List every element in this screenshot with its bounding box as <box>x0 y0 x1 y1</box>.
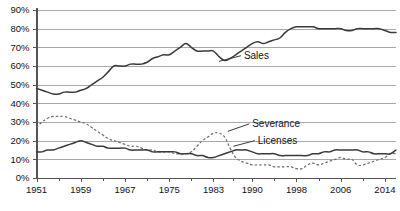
axis-lines <box>37 8 397 179</box>
x-tick-label: 1951 <box>26 184 47 195</box>
series-line-severance <box>37 116 397 169</box>
series-line-sales <box>37 27 397 95</box>
x-tick-label: 1990 <box>242 184 263 195</box>
y-axis-tick-labels: 0%10%20%30%40%50%60%70%80%90% <box>10 4 30 183</box>
y-tick-label: 50% <box>10 79 30 90</box>
x-tick-label: 1967 <box>114 184 135 195</box>
y-tick-label: 90% <box>10 4 30 15</box>
x-tick-label: 1983 <box>203 184 224 195</box>
series-label-severance: Severance <box>252 118 300 129</box>
leader-line-severance <box>228 124 249 131</box>
x-tick-label: 1959 <box>70 184 91 195</box>
y-axis-tick-marks <box>33 11 37 179</box>
y-tick-label: 20% <box>10 135 30 146</box>
y-tick-label: 10% <box>10 154 30 165</box>
x-tick-label: 2006 <box>330 184 351 195</box>
y-tick-label: 0% <box>16 172 30 183</box>
y-tick-label: 30% <box>10 116 30 127</box>
y-tick-label: 80% <box>10 23 30 34</box>
line-chart: 0%10%20%30%40%50%60%70%80%90% 1951195919… <box>0 0 400 211</box>
x-axis-tick-labels: 195119591967197519831990199820062014 <box>26 184 396 195</box>
y-tick-label: 40% <box>10 98 30 109</box>
series-line-licenses <box>37 141 397 158</box>
gridlines <box>37 11 397 179</box>
series-inline-labels: SalesSeveranceLicenses <box>219 50 300 146</box>
chart-container: 0%10%20%30%40%50%60%70%80%90% 1951195919… <box>0 0 400 211</box>
data-series <box>37 27 397 169</box>
x-tick-label: 1998 <box>286 184 307 195</box>
series-label-sales: Sales <box>244 50 269 61</box>
x-tick-label: 1975 <box>159 184 180 195</box>
y-tick-label: 60% <box>10 60 30 71</box>
series-label-licenses: Licenses <box>258 135 297 146</box>
y-tick-label: 70% <box>10 42 30 53</box>
x-tick-label: 2014 <box>374 184 395 195</box>
